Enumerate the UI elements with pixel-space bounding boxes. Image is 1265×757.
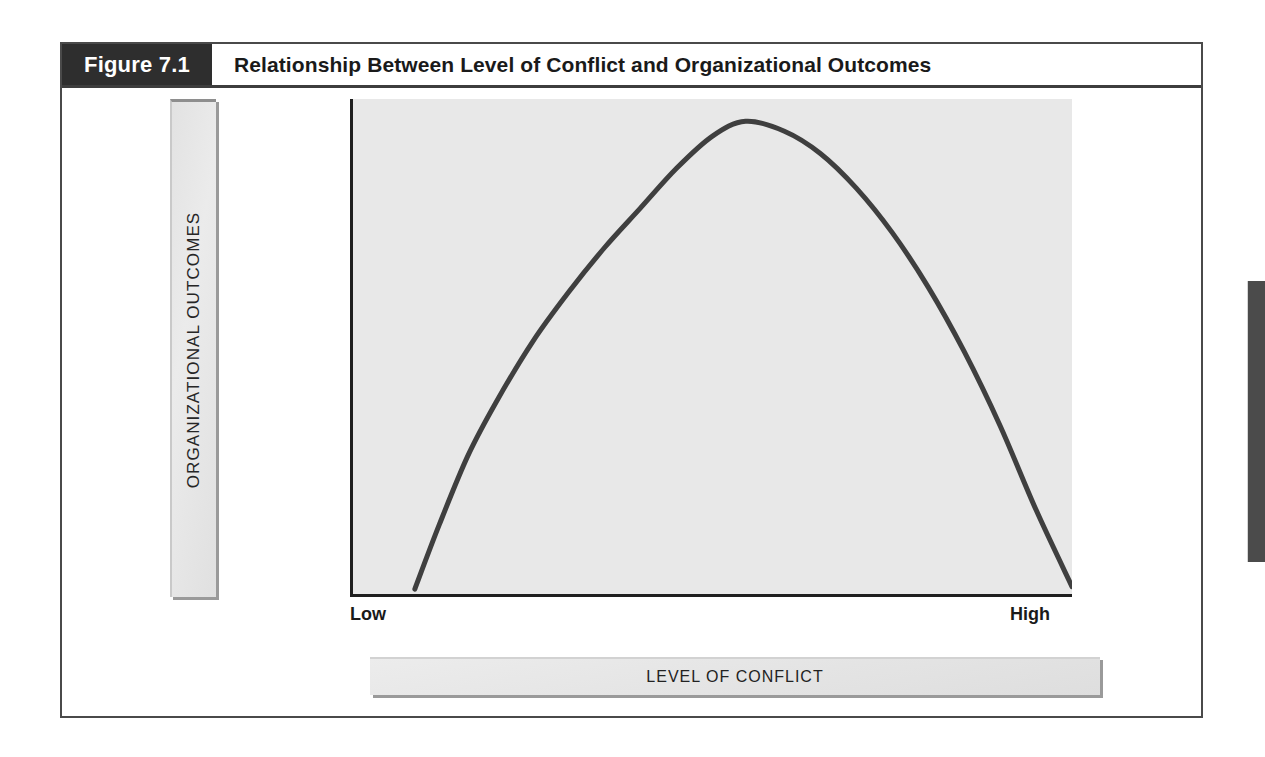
- conflict-outcome-curve: [353, 99, 1072, 594]
- x-axis-right-label: High: [1010, 604, 1050, 625]
- page-edge-tab-marker: [1247, 281, 1265, 562]
- curve-path: [415, 121, 1072, 589]
- figure-header: Figure 7.1 Relationship Between Level of…: [62, 44, 1201, 88]
- plot-area: [350, 99, 1072, 597]
- x-axis-title-label: LEVEL OF CONFLICT: [646, 668, 823, 686]
- y-axis-title-label: ORGANIZATIONAL OUTCOMES: [184, 211, 204, 488]
- figure-frame: Figure 7.1 Relationship Between Level of…: [60, 42, 1203, 718]
- y-axis-title-bar: ORGANIZATIONAL OUTCOMES: [170, 99, 216, 597]
- x-axis-left-label: Low: [350, 604, 386, 625]
- figure-number-badge: Figure 7.1: [62, 44, 212, 85]
- figure-title: Relationship Between Level of Conflict a…: [212, 44, 1201, 85]
- plot-region: [350, 99, 1072, 597]
- x-axis-title-bar: LEVEL OF CONFLICT: [370, 657, 1100, 695]
